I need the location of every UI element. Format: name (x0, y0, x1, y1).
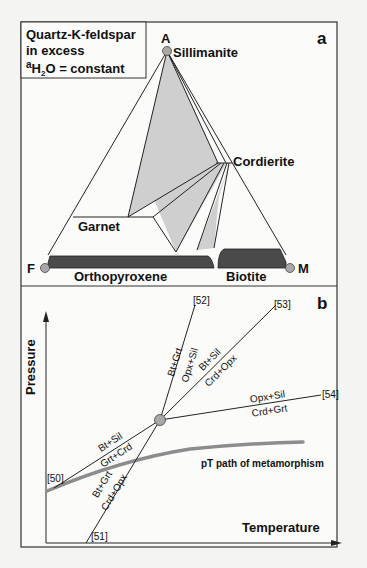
vertex-m-node (286, 264, 295, 273)
y-axis-label: Pressure (23, 339, 38, 395)
vertex-a-label: A (161, 31, 171, 46)
panel-a-label: a (317, 29, 327, 48)
legend-line-1: Quartz-K-feldspar (26, 27, 136, 42)
garnet-label: Garnet (78, 219, 121, 234)
vertex-m-label: M (298, 261, 309, 276)
reaction-id-53: [53] (274, 299, 291, 310)
x-axis-label: Temperature (242, 520, 320, 535)
panel-b-label: b (317, 294, 327, 313)
reaction-id-54: [54] (322, 389, 339, 400)
orthopyroxene-label: Orthopyroxene (74, 269, 167, 284)
reaction-id-52: [52] (193, 295, 210, 306)
reaction-id-51: [51] (91, 531, 108, 542)
legend-line-2: in excess (26, 43, 85, 58)
orthopyroxene-band (48, 256, 214, 268)
biotite-band (218, 249, 286, 268)
legend-line-3: aH2O = constant (26, 59, 125, 78)
figure: Quartz-K-feldspar in excess aH2O = const… (0, 0, 367, 568)
vertex-f-label: F (27, 261, 35, 276)
vertex-f-node (41, 264, 50, 273)
invariant-point-node (155, 415, 166, 426)
vertex-a-node (163, 47, 172, 56)
sillimanite-label: Sillimanite (173, 45, 238, 60)
cordierite-label: Cordierite (233, 154, 294, 169)
biotite-label: Biotite (226, 269, 266, 284)
reaction-id-50: [50] (47, 473, 64, 484)
pt-path-label: pT path of metamorphism (201, 458, 324, 469)
